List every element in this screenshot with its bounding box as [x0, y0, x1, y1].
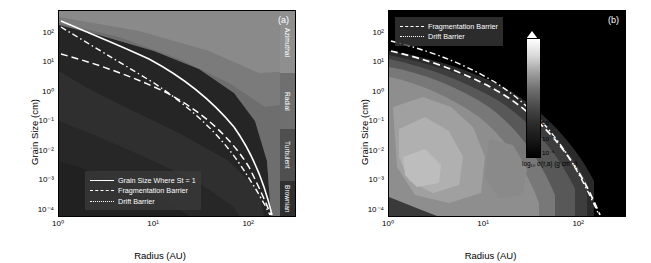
panel-b-ytick-0: 10⁻⁴ — [368, 204, 384, 213]
colorbar-tick-1: 10⁰ — [542, 55, 551, 62]
figure: Grain Size (cm) Radius (AU) 10⁻⁴ 10⁻³ 10… — [0, 0, 651, 263]
dashed-line-icon — [90, 190, 114, 191]
panel-a-ylabel: Grain Size (cm) — [29, 99, 40, 165]
panel-a-tag: (a) — [278, 15, 289, 25]
panel-a-ytick-2: 10⁻² — [38, 145, 54, 154]
colorbar-tick-4: 10⁻³ — [542, 103, 554, 110]
panel-b-ytick-3: 10⁻¹ — [368, 116, 384, 125]
colorbar-label: log₁₀ σ(r,a) (g cm⁻²) — [522, 160, 577, 168]
panel-b-xtick-2: 10² — [572, 219, 584, 228]
colorbar-tick-7: 10⁻⁶ — [542, 149, 554, 156]
panel-a-plot-area: 10⁻⁴ 10⁻³ 10⁻² 10⁻¹ 10⁰ 10¹ 10² 10⁰ 10¹ … — [58, 10, 294, 215]
dashed-line-icon — [400, 26, 424, 27]
panel-a-ytick-3: 10⁻¹ — [38, 116, 54, 125]
regime-turbulent: Turbulent — [280, 129, 295, 181]
panel-b-ytick-2: 10⁻² — [368, 145, 384, 154]
legend-item-st1: Grain Size Where St = 1 — [90, 176, 196, 185]
panel-a-ytick-1: 10⁻³ — [38, 175, 54, 184]
colorbar-gradient — [526, 38, 541, 158]
legend-label-st1: Grain Size Where St = 1 — [118, 176, 196, 185]
panel-b-ytick-1: 10⁻³ — [368, 175, 384, 184]
panel-a-xtick-1: 10¹ — [147, 219, 159, 228]
panel-a-ytick-6: 10² — [42, 27, 54, 36]
colorbar-tick-3: 10⁻² — [542, 87, 554, 94]
panel-b-tag: (b) — [608, 15, 619, 25]
panel-a: Grain Size (cm) Radius (AU) 10⁻⁴ 10⁻³ 10… — [0, 0, 320, 263]
panel-b-ytick-5: 10¹ — [372, 57, 384, 66]
panel-a-ytick-0: 10⁻⁴ — [38, 204, 54, 213]
legend-item-drift-b: Drift Barrier — [400, 32, 498, 41]
legend-label-fragmentation-b: Fragmentation Barrier — [428, 22, 498, 31]
panel-b-ytick-6: 10² — [372, 27, 384, 36]
panel-a-xtick-2: 10² — [242, 219, 254, 228]
panel-b-ylabel: Grain Size (cm) — [359, 99, 370, 165]
legend-label-fragmentation: Fragmentation Barrier — [118, 186, 188, 195]
panel-b: Grain Size (cm) Radius (AU) 10⁻⁴ 10⁻³ 10… — [330, 0, 651, 263]
panel-b-xtick-0: 10⁰ — [382, 219, 394, 228]
panel-a-heatmap: Azimuthal Radial Turbulent Brownian (a) … — [58, 10, 296, 217]
regime-brownian: Brownian — [280, 181, 295, 216]
colorbar-tick-2: 10⁻¹ — [542, 71, 554, 78]
panel-b-xtick-1: 10¹ — [477, 219, 489, 228]
panel-a-ytick-5: 10¹ — [42, 57, 54, 66]
legend-label-drift: Drift Barrier — [118, 197, 155, 206]
panel-a-regime-strip: Azimuthal Radial Turbulent Brownian — [280, 11, 295, 216]
panel-b-legend: Fragmentation Barrier Drift Barrier — [395, 17, 503, 46]
panel-a-xlabel: Radius (AU) — [0, 250, 320, 261]
panel-a-legend: Grain Size Where St = 1 Fragmentation Ba… — [85, 171, 201, 210]
panel-a-ytick-4: 10⁰ — [42, 86, 54, 95]
panel-b-ytick-4: 10⁰ — [372, 86, 384, 95]
colorbar-tick-5: 10⁻⁴ — [542, 119, 555, 126]
solid-line-icon — [90, 180, 114, 181]
dash-dot-line-icon — [90, 201, 114, 202]
legend-item-fragmentation: Fragmentation Barrier — [90, 186, 196, 195]
legend-item-fragmentation-b: Fragmentation Barrier — [400, 22, 498, 31]
panel-b-plot-area: 10⁻⁴ 10⁻³ 10⁻² 10⁻¹ 10⁰ 10¹ 10² 10⁰ 10¹ … — [388, 10, 624, 215]
legend-item-drift: Drift Barrier — [90, 197, 196, 206]
colorbar-tick-0: 10¹ — [542, 39, 551, 46]
panel-a-xtick-0: 10⁰ — [52, 219, 64, 228]
legend-label-drift-b: Drift Barrier — [428, 32, 465, 41]
dash-dot-line-icon — [400, 36, 424, 37]
regime-radial: Radial — [280, 73, 295, 129]
colorbar-tick-6: 10⁻⁵ — [542, 135, 554, 142]
panel-b-heatmap: (b) Fragmentation Barrier Drift Barrier — [388, 10, 626, 217]
panel-b-xlabel: Radius (AU) — [330, 250, 651, 261]
